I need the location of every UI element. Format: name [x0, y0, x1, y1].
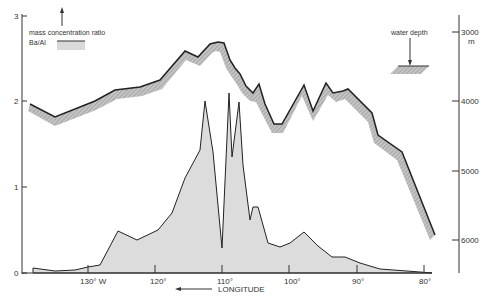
down-arrow-icon: [408, 38, 412, 66]
legend-ba-al-line1: mass concentration ratio: [29, 29, 105, 36]
left-tick-1: 1: [14, 183, 19, 192]
legend-water-depth: water depth: [390, 29, 429, 74]
legend-water-depth-label: water depth: [390, 29, 428, 37]
legend-water-depth-swatch: [390, 66, 429, 74]
right-tick-5000: 5000: [461, 167, 479, 176]
right-y-axis: 3000 m 4000 5000 6000: [452, 15, 479, 273]
left-y-axis: 3 2 1 0: [14, 12, 27, 278]
legend-ba-al-line2: Ba/Al: [29, 39, 46, 46]
x-tick-100: 100°: [284, 277, 301, 286]
left-tick-3: 3: [14, 12, 19, 21]
x-tick-90: 90°: [352, 277, 364, 286]
left-arrow-icon: [175, 287, 212, 291]
right-tick-6000: 6000: [461, 236, 479, 245]
right-tick-4000: 4000: [461, 97, 479, 106]
legend-ba-al: mass concentration ratio Ba/Al: [29, 7, 105, 50]
legend-ba-al-swatch: [57, 41, 85, 50]
x-tick-80: 80°: [419, 277, 431, 286]
x-axis-label: LONGITUDE: [218, 285, 265, 294]
x-tick-120: 120°: [150, 277, 167, 286]
left-tick-0: 0: [14, 269, 19, 278]
chart-figure: 3 2 1 0 3000 m 4000 5000 6000 130° W 120…: [0, 0, 494, 302]
left-tick-2: 2: [14, 97, 19, 106]
up-arrow-icon: [60, 7, 64, 26]
right-tick-3000: 3000: [461, 28, 479, 37]
right-axis-unit: m: [468, 37, 475, 46]
x-tick-130w: 130° W: [80, 277, 107, 286]
